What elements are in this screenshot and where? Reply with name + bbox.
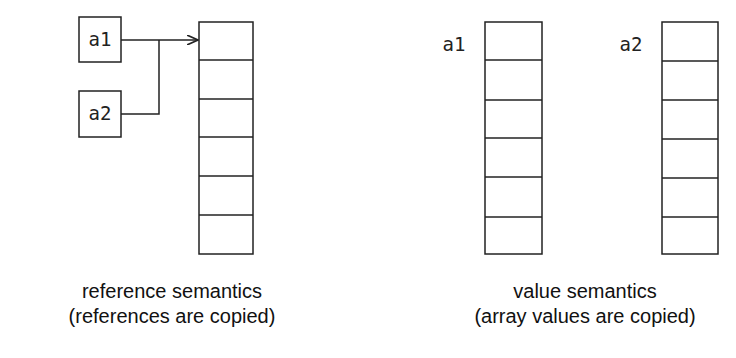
shared-array <box>199 22 253 254</box>
var-label-a2: a2 <box>89 102 112 124</box>
value-label-a2: a2 <box>620 33 643 55</box>
diagram-canvas: a1 a2 reference semantics (references ar… <box>0 0 736 358</box>
reference-caption-subtitle: (references are copied) <box>69 305 276 327</box>
reference-semantics-panel: a1 a2 reference semantics (references ar… <box>69 17 276 327</box>
value-caption-title: value semantics <box>513 280 656 302</box>
reference-caption-title: reference semantics <box>82 280 262 302</box>
value-caption-subtitle: (array values are copied) <box>474 305 695 327</box>
reference-connector <box>121 40 159 114</box>
value-label-a1: a1 <box>443 33 466 55</box>
value-semantics-panel: a1 a2 value semantics (array values are … <box>443 22 718 327</box>
array-a2 <box>662 22 718 254</box>
var-label-a1: a1 <box>89 28 112 50</box>
array-a1 <box>485 22 542 254</box>
